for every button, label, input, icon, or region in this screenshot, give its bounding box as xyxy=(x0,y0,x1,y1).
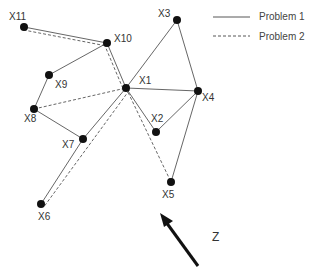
network-diagram: X1X2X3X4X5X6X7X8X9X10X11 Problem 1 Probl… xyxy=(0,0,310,280)
node-x6-icon xyxy=(37,200,45,208)
edge-x9-x8 xyxy=(34,75,49,109)
node-x4-icon xyxy=(194,87,202,95)
node-label-x7: X7 xyxy=(62,139,75,150)
arrow-shaft-icon xyxy=(166,222,198,266)
nodes xyxy=(20,16,202,208)
edge-x1-x3 xyxy=(126,20,177,88)
edge-x10-x9 xyxy=(49,43,107,75)
node-label-x8: X8 xyxy=(24,113,37,124)
dashed-edge-x1-x5 xyxy=(126,88,171,182)
dashed-edge-x1-x6 xyxy=(44,90,129,206)
node-x9-icon xyxy=(45,71,53,79)
direction-label: Z xyxy=(212,230,219,244)
dashed-edge-x8-x1 xyxy=(34,88,126,109)
edge-x11-x10 xyxy=(24,27,107,43)
node-label-x6: X6 xyxy=(38,211,51,222)
arrow-head-icon xyxy=(160,213,173,227)
legend-problem-2: Problem 2 xyxy=(259,31,305,42)
node-label-x3: X3 xyxy=(158,8,171,19)
node-labels: X1X2X3X4X5X6X7X8X9X10X11 xyxy=(9,8,215,222)
node-x2-icon xyxy=(152,128,160,136)
legend: Problem 1 Problem 2 xyxy=(213,11,305,42)
node-x7-icon xyxy=(79,135,87,143)
node-x3-icon xyxy=(173,16,181,24)
edge-x7-x1 xyxy=(83,88,126,139)
node-label-x4: X4 xyxy=(202,92,215,103)
problem-1-edges xyxy=(24,20,198,204)
node-label-x2: X2 xyxy=(151,113,164,124)
dashed-edge-x10-x1 xyxy=(104,44,123,89)
edge-x10-x1 xyxy=(107,43,126,88)
node-label-x10: X10 xyxy=(114,33,132,44)
dashed-edge-x11-x10 xyxy=(23,30,106,46)
legend-problem-1: Problem 1 xyxy=(259,11,305,22)
node-label-x1: X1 xyxy=(139,75,152,86)
edge-x8-x7 xyxy=(34,109,83,139)
node-x10-icon xyxy=(103,39,111,47)
node-label-x11: X11 xyxy=(9,11,26,22)
node-label-x5: X5 xyxy=(162,189,175,200)
direction-arrow: Z xyxy=(160,213,219,266)
edge-x1-x4 xyxy=(126,88,198,91)
edge-x3-x4 xyxy=(177,20,198,91)
node-x11-icon xyxy=(20,23,28,31)
node-x8-icon xyxy=(30,105,38,113)
node-x1-icon xyxy=(122,84,130,92)
problem-2-edges xyxy=(23,30,171,206)
edge-x1-x2 xyxy=(126,88,156,132)
node-x5-icon xyxy=(167,178,175,186)
node-label-x9: X9 xyxy=(55,79,68,90)
